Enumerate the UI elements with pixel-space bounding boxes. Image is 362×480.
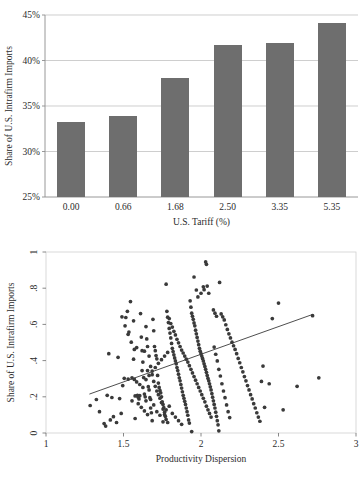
scatter-point [98, 410, 102, 414]
scatter-point [250, 397, 254, 401]
scatter-point [205, 371, 209, 375]
bar-column [109, 116, 137, 197]
scatter-point [183, 399, 187, 403]
scatter-point [118, 397, 122, 401]
scatter-point [185, 410, 189, 414]
scatter-point [170, 346, 174, 350]
scatter-point [209, 388, 213, 392]
scatter-point [193, 324, 197, 328]
scatter-point [161, 407, 165, 411]
scatter-point [196, 339, 200, 343]
bar-x-tick-label: 2.50 [219, 202, 236, 212]
scatter-point [139, 335, 143, 339]
scatter-point [247, 388, 251, 392]
scatter-point [150, 411, 154, 415]
scatter-point [163, 354, 167, 358]
scatter-point [143, 349, 147, 353]
scatter-point [141, 360, 145, 364]
scatter-point [163, 413, 167, 417]
scatter-point [168, 331, 172, 335]
bar-x-tick-label: 3.35 [271, 202, 288, 212]
scatter-point [146, 385, 150, 389]
scatter-point [189, 305, 193, 309]
scatter-point [139, 312, 143, 316]
scatter-point [195, 382, 199, 386]
scatter-point [215, 314, 219, 318]
scatter-point [171, 350, 175, 354]
scatter-point [267, 382, 271, 386]
scatter-point [140, 369, 144, 373]
scatter-point [246, 384, 250, 388]
scatter-point [149, 406, 153, 410]
scatter-point [249, 393, 253, 397]
scatter-y-tick-label: .2 [29, 393, 39, 400]
scatter-point [270, 317, 274, 321]
scatter-point [210, 392, 214, 396]
scatter-point [204, 367, 208, 371]
scatter-point [180, 386, 184, 390]
scatter-point [195, 332, 199, 336]
scatter-point [188, 421, 192, 425]
scatter-point [217, 429, 221, 433]
scatter-point [195, 288, 199, 292]
bar-x-axis-title: U.S. Tariff (%) [173, 217, 230, 228]
scatter-point [178, 345, 182, 349]
scatter-point [176, 369, 180, 373]
scatter-point [137, 397, 141, 401]
scatter-point [192, 275, 196, 279]
scatter-point [160, 401, 164, 405]
scatter-point [115, 421, 119, 425]
scatter-point [209, 415, 213, 419]
scatter-chart-canvas: 0.2.4.6.8111.522.53Productivity Dispersi… [0, 240, 362, 480]
scatter-point [177, 419, 181, 423]
scatter-point [145, 337, 149, 341]
scatter-point [208, 382, 212, 386]
scatter-point [160, 358, 164, 362]
scatter-point [215, 359, 219, 363]
scatter-point [88, 404, 92, 408]
scatter-point [189, 367, 193, 371]
scatter-x-tick-label: 1.5 [118, 439, 130, 449]
scatter-point [116, 355, 120, 359]
scatter-point [135, 380, 139, 384]
scatter-point [153, 384, 157, 388]
scatter-point [186, 360, 190, 364]
bar-chart-canvas: 45%40%35%30%25%0.000.661.682.503.355.35U… [0, 0, 362, 240]
scatter-point [158, 396, 162, 400]
scatter-point [105, 394, 109, 398]
scatter-point [190, 430, 194, 434]
bar-x-tick-label: 0.66 [115, 202, 132, 212]
scatter-point [122, 376, 126, 380]
scatter-point [164, 408, 168, 412]
scatter-point [175, 337, 179, 341]
scatter-point [174, 333, 178, 337]
bar-x-tick-label: 1.68 [167, 202, 184, 212]
scatter-point [121, 384, 125, 388]
scatter-point [222, 318, 226, 322]
scatter-point [154, 354, 158, 358]
scatter-point [123, 324, 127, 328]
scatter-point [191, 317, 195, 321]
scatter-point [143, 409, 147, 413]
scatter-point [161, 420, 165, 424]
scatter-point [175, 366, 179, 370]
scatter-point [218, 281, 222, 285]
scatter-point [153, 345, 157, 349]
scatter-point [153, 349, 157, 353]
scatter-x-axis-title: Productivity Dispersion [156, 454, 247, 464]
scatter-point [214, 352, 218, 356]
scatter-point [144, 378, 148, 382]
scatter-point [257, 415, 261, 419]
scatter-point [144, 325, 148, 329]
scatter-point [167, 404, 171, 408]
scatter-point [104, 424, 108, 428]
scatter-point [172, 329, 176, 333]
scatter-point [184, 403, 188, 407]
scatter-point [170, 342, 174, 346]
scatter-point [133, 348, 137, 352]
scatter-point [95, 398, 99, 402]
scatter-point [191, 371, 195, 375]
scatter-point [216, 423, 220, 427]
scatter-point [217, 367, 221, 371]
scatter-point [146, 345, 150, 349]
